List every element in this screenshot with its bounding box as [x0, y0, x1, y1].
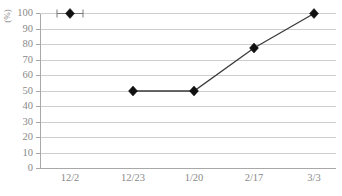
- chart-canvas: 100 90 80 70 60 50 40 30 20 10 0 (%) 12/…: [0, 0, 342, 196]
- data-point-marker-2: [190, 86, 199, 96]
- y-axis-tick-labels: 100 90 80 70 60 50 40 30 20 10 0: [17, 7, 33, 173]
- ytick-label-0: 0: [28, 162, 33, 173]
- data-point-markers: [66, 9, 319, 97]
- data-point-marker-4: [310, 9, 319, 19]
- xtick-label-0: 12/2: [61, 172, 80, 183]
- ytick-label-20: 20: [23, 131, 34, 142]
- gridlines: [40, 14, 336, 154]
- y-axis-unit-label: (%): [2, 9, 12, 23]
- x-axis-tick-labels: 12/2 12/23 1/20 2/17 3/3: [61, 172, 321, 183]
- ytick-label-70: 70: [23, 54, 34, 65]
- xtick-label-1: 12/23: [121, 172, 145, 183]
- xtick-label-3: 2/17: [245, 172, 264, 183]
- ytick-label-100: 100: [17, 7, 33, 18]
- ytick-label-40: 40: [23, 100, 34, 111]
- ytick-label-10: 10: [23, 147, 34, 158]
- data-point-marker-0: [66, 9, 75, 19]
- ytick-label-80: 80: [23, 38, 34, 49]
- ytick-label-50: 50: [23, 85, 34, 96]
- ytick-label-30: 30: [23, 116, 34, 127]
- y-axis-ticks: [36, 14, 40, 169]
- xtick-label-2: 1/20: [185, 172, 204, 183]
- line-chart: 100 90 80 70 60 50 40 30 20 10 0 (%) 12/…: [0, 0, 342, 196]
- data-point-marker-1: [129, 86, 138, 96]
- series-line-path: [133, 14, 314, 92]
- ytick-label-90: 90: [23, 23, 34, 34]
- ytick-label-60: 60: [23, 69, 34, 80]
- xtick-label-4: 3/3: [307, 172, 320, 183]
